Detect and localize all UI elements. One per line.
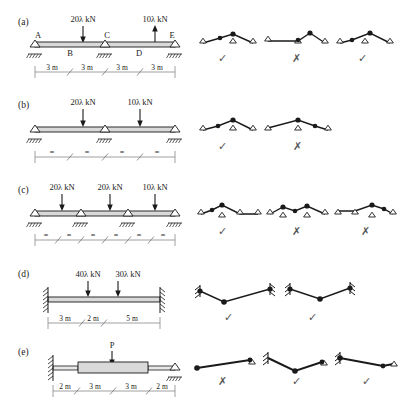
support-d-left bbox=[43, 287, 48, 313]
support-e-left bbox=[48, 355, 53, 381]
answer-c-2[interactable]: ✗ bbox=[267, 203, 329, 237]
row-label-c: (c) bbox=[18, 185, 29, 196]
load-label-c-3: 10λ kN bbox=[142, 182, 167, 192]
load-label-e-1: P bbox=[110, 340, 115, 350]
dim-label-b-2: = bbox=[85, 148, 90, 157]
answer-mark-e-3: ✓ bbox=[362, 375, 371, 387]
answer-b-2[interactable]: ✗ bbox=[265, 117, 332, 152]
dim-label-b-3: = bbox=[120, 148, 125, 157]
load-arrow-d-1 bbox=[85, 281, 91, 297]
node-label-a-D: D bbox=[136, 48, 142, 58]
dim-label-e-2: 3 m bbox=[89, 382, 101, 391]
dim-label-d-2: 2 m bbox=[87, 314, 99, 323]
answer-a-1[interactable]: ✓ bbox=[200, 31, 257, 64]
load-arrow-c-1 bbox=[59, 194, 65, 211]
row-label-a: (a) bbox=[18, 17, 29, 28]
support-d-right bbox=[160, 287, 165, 313]
row-label-d: (d) bbox=[18, 269, 29, 280]
node-label-a-B: B bbox=[67, 48, 73, 58]
dim-label-c-4: = bbox=[114, 231, 119, 240]
answer-mark-e-1: ✗ bbox=[218, 375, 227, 387]
dim-label-c-5: = bbox=[137, 231, 142, 240]
dim-label-a-2: 3 m bbox=[81, 63, 93, 72]
answer-mark-d-2: ✓ bbox=[308, 311, 317, 323]
row-label-e: (e) bbox=[18, 347, 29, 358]
row-e: (e) P 2 m 3 m 3 m 2 m bbox=[18, 340, 397, 397]
dim-label-e-3: 3 m bbox=[125, 382, 137, 391]
load-arrow-a-1 bbox=[80, 26, 86, 43]
load-label-a-1: 20λ kN bbox=[70, 14, 95, 24]
answer-e-3[interactable]: ✓ bbox=[335, 352, 397, 387]
beam-e-middle-thick bbox=[78, 362, 148, 373]
answer-e-1[interactable]: ✗ bbox=[194, 358, 255, 387]
dimension-line-b: = = = = bbox=[35, 148, 175, 163]
dim-label-c-2: = bbox=[67, 231, 72, 240]
beam-c bbox=[35, 211, 175, 216]
answer-mark-b-1: ✓ bbox=[218, 140, 227, 152]
load-label-d-2: 30λ kN bbox=[115, 269, 140, 279]
beam-e-left-thin bbox=[53, 366, 78, 370]
dim-label-b-1: = bbox=[50, 148, 55, 157]
answer-a-2[interactable]: ✗ bbox=[265, 30, 329, 64]
figure-canvas: (a) 20λ kN 10λ kN A B C D E bbox=[0, 0, 403, 408]
answer-mark-c-3: ✗ bbox=[361, 225, 370, 237]
load-label-a-2: 10λ kN bbox=[142, 14, 167, 24]
load-arrow-a-2 bbox=[152, 25, 158, 43]
dim-label-c-3: = bbox=[91, 231, 96, 240]
dimension-line-e: 2 m 3 m 3 m 2 m bbox=[53, 382, 175, 397]
row-a: (a) 20λ kN 10λ kN A B C D E bbox=[18, 14, 393, 78]
dim-label-d-3: 5 m bbox=[126, 314, 138, 323]
load-arrow-c-2 bbox=[107, 194, 113, 211]
answer-c-1[interactable]: ✓ bbox=[198, 202, 262, 237]
load-label-c-2: 20λ kN bbox=[97, 182, 122, 192]
load-arrow-d-2 bbox=[115, 281, 121, 297]
dim-label-d-1: 3 m bbox=[59, 314, 71, 323]
load-arrow-b-2 bbox=[137, 109, 143, 127]
answer-mark-b-2: ✗ bbox=[293, 140, 302, 152]
dim-label-e-1: 2 m bbox=[59, 382, 71, 391]
dim-label-a-1: 3 m bbox=[46, 63, 58, 72]
answer-b-1[interactable]: ✓ bbox=[200, 117, 257, 152]
dim-label-c-1: = bbox=[44, 231, 49, 240]
node-label-a-C: C bbox=[104, 30, 110, 40]
dim-label-b-4: = bbox=[155, 148, 160, 157]
load-label-b-2: 10λ kN bbox=[127, 97, 152, 107]
load-label-c-1: 20λ kN bbox=[49, 182, 74, 192]
row-c: (c) 20λ kN 20λ kN 10λ kN bbox=[18, 182, 396, 246]
row-label-b: (b) bbox=[18, 100, 29, 111]
load-label-d-1: 40λ kN bbox=[75, 269, 100, 279]
dimension-line-d: 3 m 2 m 5 m bbox=[48, 314, 160, 329]
answer-d-1[interactable]: ✓ bbox=[195, 283, 275, 323]
load-arrow-b-1 bbox=[80, 109, 86, 127]
dimension-line-c: = = = = = = bbox=[35, 231, 175, 246]
answer-a-3[interactable]: ✓ bbox=[337, 30, 394, 64]
beam-d bbox=[48, 297, 160, 302]
dim-label-e-4: 2 m bbox=[156, 382, 168, 391]
row-d: (d) 40λ kN 30λ kN 3 m 2 m 5 m bbox=[18, 269, 355, 329]
answer-mark-a-1: ✓ bbox=[218, 52, 227, 64]
node-label-a-E: E bbox=[169, 30, 174, 40]
answer-mark-d-1: ✓ bbox=[224, 311, 233, 323]
answer-d-2[interactable]: ✓ bbox=[285, 282, 355, 323]
dimension-line-a: 3 m 3 m 3 m 3 m bbox=[35, 63, 175, 78]
answer-mark-c-1: ✓ bbox=[218, 225, 227, 237]
dim-label-c-6: = bbox=[161, 231, 166, 240]
dim-label-a-4: 3 m bbox=[151, 63, 163, 72]
node-label-a-A: A bbox=[35, 30, 42, 40]
load-label-b-1: 20λ kN bbox=[70, 97, 95, 107]
answer-mark-e-2: ✓ bbox=[292, 375, 301, 387]
answer-mark-a-3: ✓ bbox=[358, 52, 367, 64]
row-b: (b) 20λ kN 10λ kN = = = = bbox=[18, 97, 331, 163]
answer-c-3[interactable]: ✗ bbox=[335, 202, 397, 237]
load-arrow-c-3 bbox=[152, 194, 158, 211]
dim-label-a-3: 3 m bbox=[116, 63, 128, 72]
answer-mark-c-2: ✗ bbox=[292, 225, 301, 237]
answer-mark-a-2: ✗ bbox=[292, 52, 301, 64]
answer-e-2[interactable]: ✓ bbox=[263, 352, 327, 387]
